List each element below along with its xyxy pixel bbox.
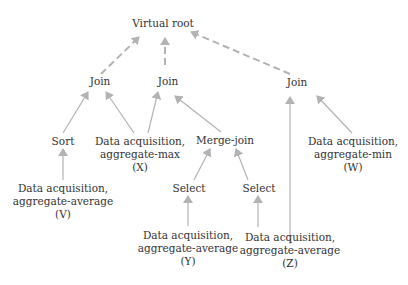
node-label: Merge-join (196, 134, 254, 147)
edge-join3-to-root (191, 32, 290, 74)
node-label-line1: Data acquisition, (240, 231, 341, 244)
node-label-line1: Data acquisition, (95, 135, 185, 148)
node-label-line3: (Z) (240, 257, 341, 270)
edge-acq-x-to-join1 (106, 92, 134, 133)
node-join-3: Join (287, 76, 308, 89)
node-label-line1: Data acquisition, (308, 135, 398, 148)
node-label-line2: aggregate-average (13, 195, 114, 208)
node-label: Join (158, 75, 179, 88)
node-label: Virtual root (132, 17, 194, 30)
edge-acq-x-to-join2 (148, 92, 158, 133)
node-select-1: Select (172, 182, 205, 195)
node-join-1: Join (90, 75, 111, 88)
node-label-line3: (W) (308, 161, 398, 174)
node-data-acquisition-v: Data acquisition, aggregate-average (V) (13, 182, 114, 221)
node-label-line3: (Y) (138, 255, 239, 268)
node-label: Join (287, 76, 308, 89)
node-data-acquisition-z: Data acquisition, aggregate-average (Z) (240, 231, 341, 270)
edge-select2-to-merge (236, 149, 248, 180)
node-merge-join: Merge-join (196, 134, 254, 147)
edge-acq-w-to-join3 (317, 96, 352, 133)
node-label: Sort (52, 135, 75, 148)
node-label-line1: Data acquisition, (138, 229, 239, 242)
node-label: Join (90, 75, 111, 88)
node-label: Select (172, 182, 205, 195)
edge-join1-to-root (101, 37, 139, 74)
node-virtual-root: Virtual root (132, 17, 194, 30)
node-sort: Sort (52, 135, 75, 148)
node-label-line2: aggregate-min (308, 148, 398, 161)
edge-sort-to-join1 (63, 92, 88, 133)
node-label-line2: aggregate-average (240, 244, 341, 257)
node-join-2: Join (158, 75, 179, 88)
node-label-line3: (V) (13, 208, 114, 221)
node-data-acquisition-x: Data acquisition, aggregate-max (X) (95, 135, 185, 174)
node-data-acquisition-w: Data acquisition, aggregate-min (W) (308, 135, 398, 174)
node-data-acquisition-y: Data acquisition, aggregate-average (Y) (138, 229, 239, 268)
node-label-line2: aggregate-average (138, 242, 239, 255)
node-label-line1: Data acquisition, (13, 182, 114, 195)
node-label: Select (242, 182, 275, 195)
query-plan-tree-diagram: Virtual root Join Join Join Sort Data ac… (0, 0, 408, 285)
node-label-line2: aggregate-max (95, 148, 185, 161)
node-select-2: Select (242, 182, 275, 195)
node-label-line3: (X) (95, 161, 185, 174)
edge-merge-to-join2 (175, 96, 221, 132)
edge-select1-to-merge (194, 149, 210, 180)
